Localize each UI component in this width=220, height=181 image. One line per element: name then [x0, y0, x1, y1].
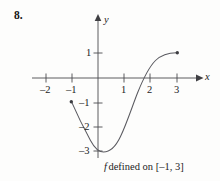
- graph-figure: 8. y x –2 –1 1 2 3 1 –1 –2 –3: [0, 0, 220, 181]
- y-axis-arrow-icon: [95, 14, 102, 21]
- y-tick-label--2: –2: [79, 122, 90, 133]
- x-tick-label--1: –1: [66, 85, 77, 96]
- left-endpoint-dot: [70, 100, 73, 103]
- y-tick-label--1: –1: [79, 98, 90, 109]
- caption-domain-text: defined on [–1, 3]: [108, 161, 183, 172]
- x-tick-label-1: 1: [121, 85, 126, 96]
- right-endpoint-dot: [176, 51, 179, 54]
- x-tick-label-2: 2: [147, 85, 152, 96]
- x-axis-label: x: [205, 72, 210, 83]
- plot-area: [0, 0, 220, 181]
- figure-caption: fdefined on [–1, 3]: [104, 162, 184, 173]
- x-axis-arrow-icon: [196, 75, 204, 82]
- x-tick-label--2: –2: [40, 85, 51, 96]
- y-tick-label--3: –3: [79, 146, 90, 157]
- y-tick-label-1: 1: [86, 48, 91, 59]
- y-axis-label: y: [104, 15, 109, 26]
- x-tick-label-3: 3: [174, 85, 179, 96]
